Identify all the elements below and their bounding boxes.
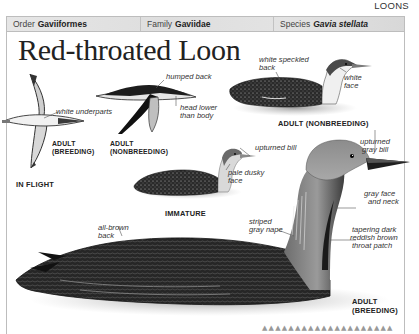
caption-adult-breeding-1: ADULT <box>352 298 378 306</box>
bird-illustrations <box>0 0 419 334</box>
label-throat-patch-3: throat patch <box>352 242 392 251</box>
caption-flight-breeding-1: ADULT <box>52 140 76 148</box>
label-white-speckled-2: back <box>259 64 275 73</box>
footer-tick-row: ▲▲▲▲▲▲▲▲▲▲▲▲▲▲▲▲▲▲▲▲ <box>262 324 394 332</box>
label-white-underparts: white underparts <box>56 108 112 117</box>
caption-in-flight: IN FLIGHT <box>16 181 54 189</box>
caption-flight-nonbreeding-2: (NONBREEDING) <box>110 148 168 156</box>
caption-flight-breeding-2: (BREEDING) <box>52 148 94 156</box>
label-humped-back: humped back <box>166 73 212 82</box>
caption-adult-nonbreeding: ADULT (NONBREEDING) <box>278 120 369 128</box>
caption-immature: IMMATURE <box>165 210 206 218</box>
label-gray-face-2: and neck <box>368 198 399 207</box>
label-pale-dusky-2: face <box>228 177 242 186</box>
label-upturned-bill: upturned bill <box>255 144 296 153</box>
breeding-adult-bird <box>16 140 410 316</box>
label-all-brown-2: back <box>98 232 114 241</box>
label-striped-nape-2: gray nape <box>249 226 283 235</box>
caption-flight-nonbreeding-1: ADULT <box>110 140 134 148</box>
label-head-lower-2: than body <box>180 112 213 121</box>
caption-adult-breeding-2: (BREEDING) <box>352 307 398 315</box>
label-white-face-2: face <box>344 82 358 91</box>
label-upturned-gray-bill-2: gray bill <box>362 146 388 155</box>
